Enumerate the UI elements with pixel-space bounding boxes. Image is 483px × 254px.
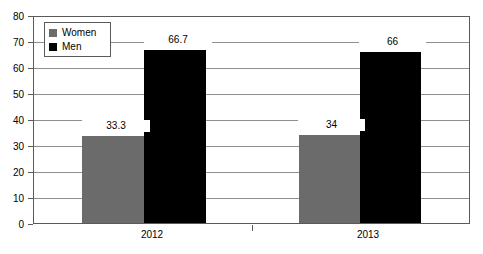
bar-chart: 33.3 66.7 34 66 80 70 60 50 40 30 20 10 … [0,0,483,254]
bar-women-2012[interactable] [82,136,144,223]
bar-men-2012[interactable] [144,50,206,223]
y-tick-label-80: 80 [13,12,24,22]
legend-label-men: Men [62,42,81,52]
y-tick-mark-30 [28,146,33,147]
x-axis-divider-tick [252,225,253,231]
bar-value-women-2012: 33.3 [82,120,150,132]
legend-swatch-men-icon [49,43,57,51]
y-tick-label-20: 20 [13,168,24,178]
y-tick-mark-40 [28,120,33,121]
x-category-label-2012: 2012 [112,230,192,240]
legend-item-women[interactable]: Women [49,26,106,40]
legend: Women Men [44,22,111,57]
legend-item-men[interactable]: Men [49,40,106,54]
bar-value-men-2013: 66 [359,36,426,48]
y-tick-label-60: 60 [13,64,24,74]
x-category-label-2013: 2013 [328,230,408,240]
y-tick-mark-50 [28,94,33,95]
y-tick-label-0: 0 [18,220,24,230]
y-tick-label-70: 70 [13,38,24,48]
y-tick-label-30: 30 [13,142,24,152]
legend-label-women: Women [62,28,96,38]
y-tick-mark-80 [28,16,33,17]
y-tick-mark-0 [28,224,33,225]
y-tick-label-50: 50 [13,90,24,100]
y-tick-label-10: 10 [13,194,24,204]
bar-men-2013[interactable] [360,52,421,223]
bar-women-2013[interactable] [299,135,360,223]
y-tick-mark-10 [28,198,33,199]
y-axis: 80 70 60 50 40 30 20 10 0 [0,0,33,254]
y-tick-label-40: 40 [13,116,24,126]
bar-value-women-2013: 34 [298,119,365,131]
y-tick-mark-20 [28,172,33,173]
y-tick-mark-70 [28,42,33,43]
y-tick-mark-60 [28,68,33,69]
bar-value-men-2012: 66.7 [144,34,212,46]
legend-swatch-women-icon [49,29,57,37]
